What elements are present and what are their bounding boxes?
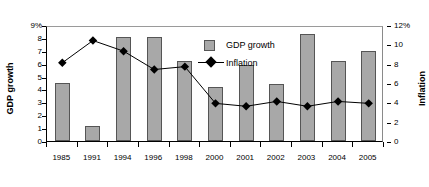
y-axis-right-tick-label: 0 [394,138,398,146]
x-axis-tick-mark [260,142,261,147]
legend-swatch-icon [204,40,215,51]
x-axis-tick-label: 2000 [206,154,224,162]
y-axis-right-tick-mark [387,84,391,85]
inflation-data-point: 2002: 4.3 [273,97,281,105]
y-axis-right-tick-mark [387,142,391,143]
inflation-data-point: 1996: 7.6 [150,65,158,73]
y-axis-right-tick-label: 4 [394,99,398,107]
y-axis-left-tick-label: 9% [30,22,42,30]
x-axis-tick-mark [352,142,353,147]
y-axis-right-tick-label: 12% [394,22,410,30]
y-axis-right-tick-mark [387,45,391,46]
legend-label-gdp-growth: GDP growth [226,38,275,52]
x-axis: 1985199119941996199820002001200220032004… [46,142,383,172]
inflation-data-point: 1991: 10.6 [89,36,97,44]
inflation-data-point: 2003: 3.8 [303,102,311,110]
legend-diamond-icon [205,56,216,67]
x-axis-tick-mark [46,142,47,147]
x-axis-tick-mark [138,142,139,147]
legend-label-inflation: Inflation [226,56,258,70]
x-axis-tick-mark [199,142,200,147]
x-axis-tick-label: 1998 [175,154,193,162]
x-axis-tick-mark [107,142,108,147]
x-axis-tick-label: 2005 [359,154,377,162]
inflation-data-point: 2004: 4.3 [334,97,342,105]
x-axis-tick-mark [322,142,323,147]
y-axis-right-tick-mark [387,103,391,104]
y-axis-right: 12%1086420 [387,26,413,142]
inflation-data-point: 2001: 3.8 [242,102,250,110]
x-axis-tick-mark [383,142,384,147]
y-axis-right-tick-label: 8 [394,61,398,69]
x-axis-tick-mark [230,142,231,147]
x-axis-tick-label: 2002 [267,154,285,162]
x-axis-tick-label: 1991 [83,154,101,162]
x-axis-tick-label: 2001 [236,154,254,162]
chart-container: 9%876543210 GDP growth 12%1086420 Inflat… [0,0,429,187]
inflation-data-point: 1985: 8.3 [58,59,66,67]
x-axis-tick-label: 1996 [144,154,162,162]
y-axis-right-tick-label: 2 [394,119,398,127]
x-axis-tick-label: 2003 [298,154,316,162]
x-axis-tick-label: 2004 [328,154,346,162]
y-axis-right-tick-mark [387,65,391,66]
y-axis-right-title: Inflation [418,59,427,119]
x-axis-tick-label: 1985 [52,154,70,162]
inflation-data-point: 2005: 4.1 [364,99,372,107]
x-axis-tick-mark [169,142,170,147]
x-axis-tick-label: 1994 [114,154,132,162]
y-axis-right-tick-label: 6 [394,80,398,88]
x-axis-tick-mark [77,142,78,147]
y-axis-right-tick-mark [387,26,391,27]
inflation-data-point: 1994: 9.5 [119,47,127,55]
y-axis-left: 9%876543210 [20,26,42,142]
y-axis-right-tick-mark [387,123,391,124]
chart-legend: GDP growth Inflation [198,38,308,72]
x-axis-tick-mark [291,142,292,147]
y-axis-left-title: GDP growth [6,57,15,121]
y-axis-right-tick-label: 10 [394,41,403,49]
